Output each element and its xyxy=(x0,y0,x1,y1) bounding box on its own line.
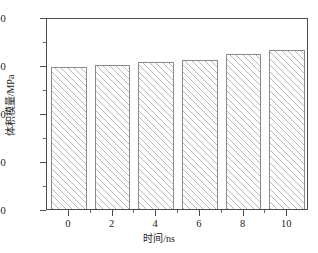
bar xyxy=(226,54,261,209)
x-tick-major xyxy=(286,210,287,216)
y-tick-label: 1 000 xyxy=(0,13,6,24)
x-tick-major xyxy=(199,210,200,216)
x-tick-minor xyxy=(133,210,134,213)
x-tick-major xyxy=(243,210,244,216)
x-tick-label: 0 xyxy=(65,218,70,229)
bar xyxy=(138,62,173,209)
bar xyxy=(182,60,217,209)
y-tick-label: 900 xyxy=(0,61,6,72)
x-tick-minor xyxy=(264,210,265,213)
bar xyxy=(269,50,304,209)
x-axis-title: 时间/ns xyxy=(0,230,318,245)
x-tick-label: 4 xyxy=(153,218,158,229)
y-tick-label: 800 xyxy=(0,109,6,120)
x-tick-label: 6 xyxy=(196,218,201,229)
plot-area xyxy=(46,18,308,210)
x-tick-minor xyxy=(177,210,178,213)
x-tick-label: 2 xyxy=(109,218,114,229)
x-tick-major xyxy=(68,210,69,216)
x-tick-major xyxy=(112,210,113,216)
x-tick-label: 8 xyxy=(240,218,245,229)
x-tick-minor xyxy=(90,210,91,213)
y-tick-label: 700 xyxy=(0,157,6,168)
bar-chart-figure: 体积模量/MPa 6007008009001 000 0246810 时间/ns xyxy=(0,0,318,253)
bar xyxy=(95,65,130,209)
x-tick-major xyxy=(155,210,156,216)
x-tick-label: 10 xyxy=(281,218,292,229)
x-tick-minor xyxy=(221,210,222,213)
bar xyxy=(51,67,86,209)
